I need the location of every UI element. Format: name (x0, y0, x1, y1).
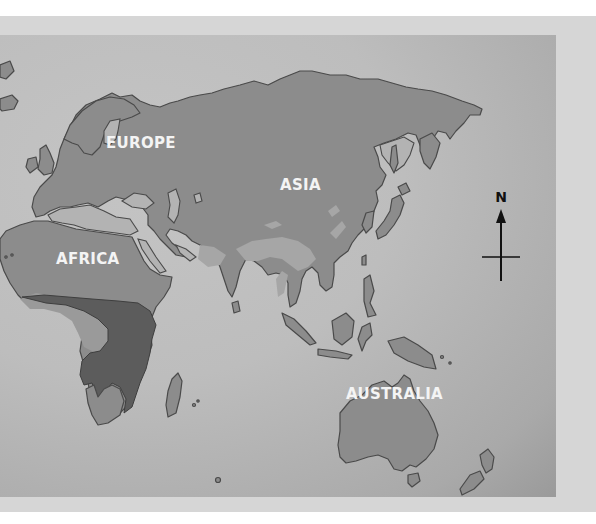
sumatra-landmass (282, 313, 316, 345)
new-zealand-landmass (480, 449, 494, 473)
britain-landmass (38, 145, 54, 175)
iceland-landmass (0, 95, 18, 111)
map-panel: EUROPE ASIA AFRICA AUSTRALIA N (0, 35, 556, 497)
label-europe: EUROPE (106, 134, 176, 152)
island (11, 254, 13, 256)
borneo-landmass (332, 313, 354, 345)
iceland-landmass (0, 61, 14, 79)
label-australia: AUSTRALIA (346, 385, 443, 403)
island (193, 404, 196, 407)
japan-landmass (376, 195, 404, 239)
label-africa: AFRICA (56, 250, 119, 268)
new-guinea-landmass (388, 337, 436, 369)
new-zealand-landmass (460, 471, 484, 495)
sulawesi-landmass (358, 323, 372, 351)
sri-lanka-landmass (232, 301, 240, 313)
java-landmass (318, 349, 352, 359)
tasmania-landmass (408, 473, 420, 487)
madagascar-landmass (166, 373, 182, 417)
asia-light-region (276, 271, 288, 297)
philippines-landmass (364, 275, 376, 317)
taiwan-landmass (362, 255, 366, 265)
island (5, 256, 7, 258)
island (441, 356, 444, 359)
compass-rose: N (476, 189, 526, 285)
island (197, 400, 199, 402)
aral-sea (194, 193, 202, 203)
island (449, 362, 451, 364)
label-asia: ASIA (280, 176, 321, 194)
hokkaido-landmass (398, 183, 410, 195)
southern-africa-landmass (86, 385, 124, 425)
ireland-landmass (26, 157, 38, 173)
north-arrow-icon (476, 189, 526, 285)
island (216, 478, 221, 483)
kamchatka-landmass (420, 133, 440, 169)
